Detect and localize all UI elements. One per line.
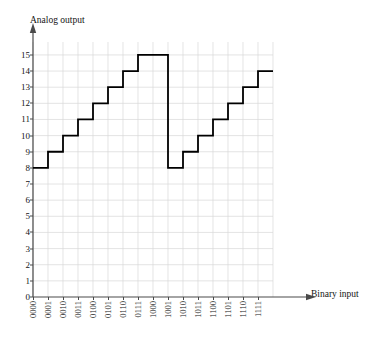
chart-figure: Analog output Binary input 0123456789101… [0, 0, 371, 343]
plot-area: 0123456789101112131415 00000001001000110… [33, 42, 273, 297]
y-tick-mark [30, 151, 33, 152]
y-tick-mark [30, 232, 33, 233]
x-tick-label: 1111 [254, 301, 263, 317]
y-tick-mark [30, 184, 33, 185]
y-tick-label: 11 [21, 115, 30, 124]
x-tick-mark [243, 297, 244, 300]
x-tick-mark [93, 297, 94, 300]
x-tick-label: 0101 [104, 301, 113, 318]
x-tick-mark [153, 297, 154, 300]
x-tick-label: 0111 [134, 301, 143, 317]
x-axis-title: Binary input [311, 289, 359, 299]
y-tick-label: 13 [21, 83, 30, 92]
y-tick-mark [30, 71, 33, 72]
y-tick-mark [30, 119, 33, 120]
y-tick-mark [30, 248, 33, 249]
y-tick-label: 12 [21, 99, 30, 108]
y-tick-mark [30, 135, 33, 136]
x-tick-mark [48, 297, 49, 300]
x-tick-mark [228, 297, 229, 300]
x-tick-label: 1110 [239, 301, 248, 317]
x-tick-label: 1101 [224, 301, 233, 318]
x-tick-mark [258, 297, 259, 300]
y-tick-label: 15 [21, 50, 30, 59]
x-tick-mark [63, 297, 64, 300]
x-tick-mark [138, 297, 139, 300]
y-tick-label: 10 [21, 131, 30, 140]
x-tick-mark [123, 297, 124, 300]
x-tick-label: 1001 [164, 301, 173, 318]
x-tick-mark [198, 297, 199, 300]
y-tick-mark [30, 54, 33, 55]
x-tick-mark [108, 297, 109, 300]
x-tick-label: 1010 [179, 301, 188, 318]
y-tick-mark [30, 264, 33, 265]
chart-graphics [33, 42, 273, 297]
y-tick-mark [30, 200, 33, 201]
y-tick-mark [30, 216, 33, 217]
y-axis-title: Analog output [30, 15, 85, 25]
x-tick-label: 0010 [59, 301, 68, 318]
x-tick-label: 0011 [74, 301, 83, 318]
x-tick-mark [33, 297, 34, 300]
y-tick-mark [30, 280, 33, 281]
x-tick-label: 1000 [149, 301, 158, 318]
x-tick-mark [168, 297, 169, 300]
x-tick-label: 1011 [194, 301, 203, 318]
x-tick-label: 0100 [89, 301, 98, 318]
x-tick-label: 0000 [29, 301, 38, 318]
x-tick-label: 1100 [209, 301, 218, 318]
gridlines [33, 42, 273, 297]
x-tick-mark [183, 297, 184, 300]
x-tick-mark [78, 297, 79, 300]
x-tick-label: 0110 [119, 301, 128, 318]
y-tick-mark [30, 167, 33, 168]
y-tick-label: 14 [21, 67, 30, 76]
y-tick-mark [30, 103, 33, 104]
x-tick-label: 0001 [44, 301, 53, 318]
y-tick-mark [30, 87, 33, 88]
x-tick-mark [213, 297, 214, 300]
